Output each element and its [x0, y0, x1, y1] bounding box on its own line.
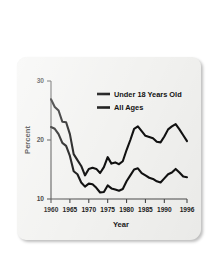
chart-screenshot: 102030 19601965197019751980198519901996 …	[0, 0, 216, 254]
x-tick-label: 1970	[81, 206, 96, 213]
x-axis-title: Year	[113, 220, 129, 229]
x-tick-label: 1996	[180, 206, 195, 213]
x-tick-label: 1990	[157, 206, 172, 213]
x-tick-label: 1960	[44, 206, 59, 213]
line-chart: 102030 19601965197019751980198519901996 …	[17, 57, 201, 240]
y-axis-title: Percent	[23, 126, 32, 154]
y-tick-label: 10	[37, 195, 45, 202]
legend-label: Under 18 Years Old	[114, 90, 182, 99]
legend-label: All Ages	[114, 103, 143, 112]
data-series-group	[51, 99, 187, 192]
y-tick-labels: 102030	[37, 77, 45, 202]
x-tick-labels: 19601965197019751980198519901996	[44, 206, 195, 213]
chart-card: 102030 19601965197019751980198519901996 …	[17, 57, 201, 240]
y-tick-label: 30	[37, 77, 45, 84]
y-tick-label: 20	[37, 136, 45, 143]
x-tick-label: 1985	[138, 206, 153, 213]
x-tick-label: 1965	[63, 206, 78, 213]
x-tick-marks	[51, 199, 187, 203]
chart-legend: Under 18 Years OldAll Ages	[97, 90, 182, 113]
x-tick-label: 1975	[100, 206, 115, 213]
x-tick-label: 1980	[119, 206, 134, 213]
